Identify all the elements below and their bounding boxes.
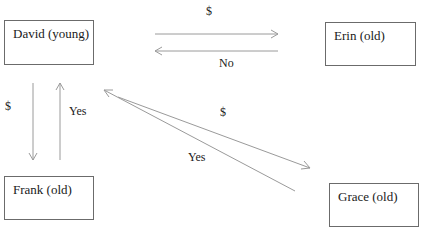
node-frank-label: Frank (old) [13, 182, 72, 198]
edge-label-erin-david: No [219, 56, 234, 71]
node-erin-label: Erin (old) [334, 28, 385, 44]
arrow-erin-to-david [155, 47, 278, 55]
arrow-david-to-grace [118, 97, 310, 169]
arrow-david-to-frank [29, 83, 37, 160]
node-grace: Grace (old) [329, 183, 419, 227]
node-frank: Frank (old) [4, 176, 94, 220]
edge-label-frank-david: Yes [69, 104, 86, 119]
node-grace-label: Grace (old) [338, 189, 398, 205]
edge-label-david-frank: $ [5, 99, 11, 114]
edge-label-david-grace: $ [220, 105, 226, 120]
arrow-grace-to-david [104, 90, 295, 191]
node-david-label: David (young) [13, 26, 89, 42]
node-erin: Erin (old) [325, 22, 416, 66]
arrow-frank-to-david [56, 83, 64, 160]
edge-label-grace-david: Yes [188, 150, 205, 165]
arrow-david-to-erin [155, 30, 278, 38]
node-david: David (young) [4, 20, 94, 65]
edge-label-david-erin: $ [206, 4, 212, 19]
